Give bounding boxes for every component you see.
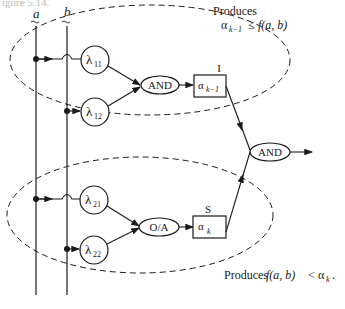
alpha-sub: k−1 bbox=[229, 25, 242, 34]
register-i-sub: k−1 bbox=[206, 85, 219, 94]
register-s-label: S bbox=[205, 203, 211, 215]
top-annotation-line1: Produces bbox=[213, 4, 257, 18]
period: . bbox=[332, 268, 335, 282]
tilde-a bbox=[31, 21, 39, 23]
logic-diagram: a b λ 11 λ 12 AND I α k−1 λ 21 λ 22 O/A … bbox=[0, 0, 345, 309]
register-i-label: I bbox=[217, 62, 221, 74]
tilde-b bbox=[62, 21, 70, 23]
lambda-11-symbol: λ bbox=[86, 52, 93, 67]
lambda-21-sub: 21 bbox=[93, 200, 101, 209]
top-and-gate-label: AND bbox=[148, 79, 172, 91]
register-s-sub: k bbox=[207, 227, 211, 236]
bottom-oa-gate-label: O/A bbox=[150, 221, 169, 233]
alpha-sub: k bbox=[326, 275, 330, 284]
register-i-symbol: α bbox=[198, 79, 204, 91]
relation-symbol: ≤ bbox=[248, 18, 255, 32]
produces-text: Produces bbox=[224, 268, 268, 282]
top-annotation-line2: α k−1 ≤ f(a, b) bbox=[221, 18, 287, 34]
lambda-21-symbol: λ bbox=[85, 192, 92, 207]
register-s-symbol: α bbox=[198, 220, 204, 232]
alpha-symbol: α bbox=[318, 268, 325, 282]
lambda-22-symbol: λ bbox=[85, 242, 92, 257]
alpha-symbol: α bbox=[221, 18, 228, 32]
function-expression: f(a, b) bbox=[258, 18, 287, 32]
lambda-12-sub: 12 bbox=[94, 112, 102, 121]
bottom-annotation: Produces f(a, b) < α k . bbox=[224, 268, 335, 284]
relation-symbol: < bbox=[308, 268, 315, 282]
input-label-a: a bbox=[33, 6, 40, 21]
lambda-22-sub: 22 bbox=[93, 250, 101, 259]
lambda-11-sub: 11 bbox=[94, 60, 102, 69]
output-and-gate-label: AND bbox=[258, 146, 282, 158]
lambda-12-symbol: λ bbox=[86, 104, 93, 119]
function-expression: f(a, b) bbox=[266, 268, 295, 282]
bottom-group-boundary bbox=[7, 157, 273, 273]
